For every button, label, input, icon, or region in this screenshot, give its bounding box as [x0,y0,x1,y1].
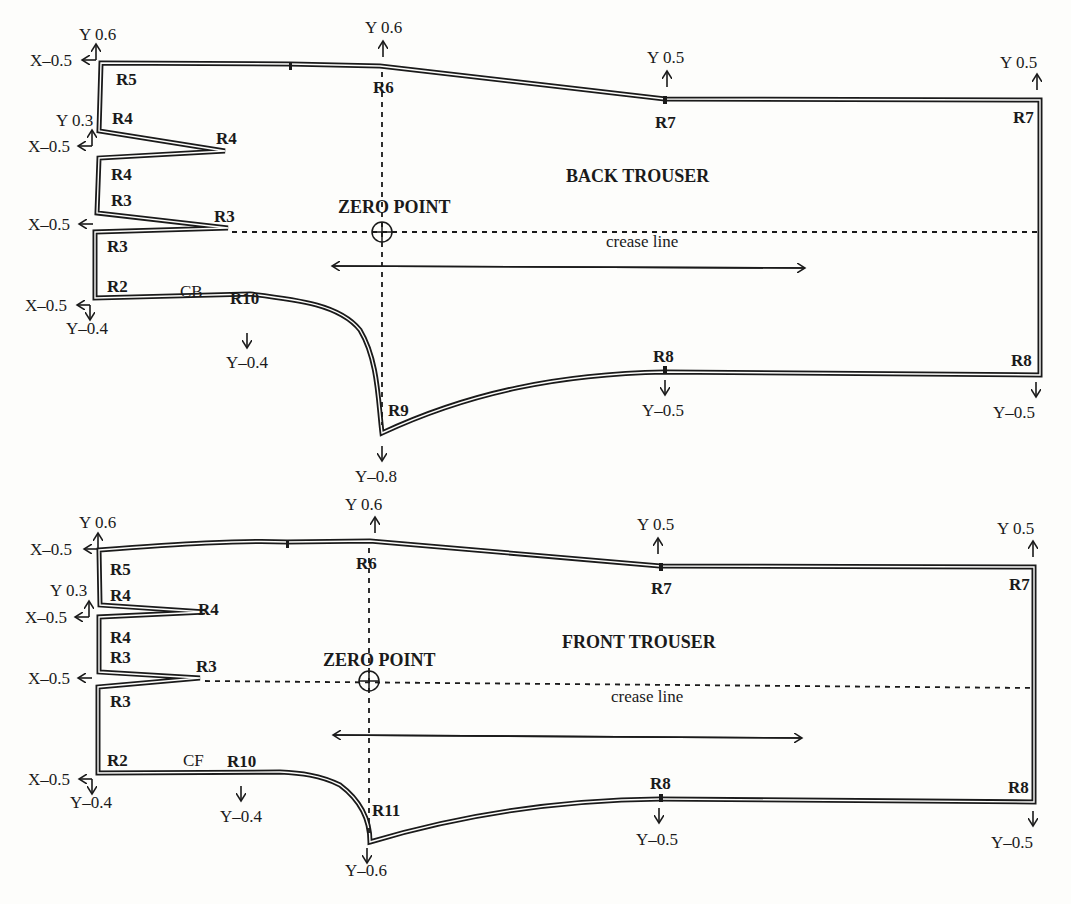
point-label: R8 [1008,778,1029,797]
grade-label: Y 0.6 [79,513,116,532]
grade-label: Y 0.3 [56,111,93,130]
grade-label: Y–0.5 [642,401,684,420]
grade-label: Y 0.6 [345,495,382,514]
grade-label: Y 0.5 [1000,53,1037,72]
front-seam-label: CF [183,751,204,770]
grade-label: Y 0.6 [365,18,402,37]
point-label: R8 [653,347,674,366]
point-label: R3 [214,207,235,226]
point-label: R4 [112,109,133,128]
grade-label: Y–0.5 [993,403,1035,422]
point-label: R11 [372,801,400,820]
front-outline-inner [98,541,1034,842]
front-title: FRONT TROUSER [562,632,717,652]
point-label: R3 [110,692,131,711]
back-outline [95,63,1040,433]
grade-label: Y–0.4 [220,807,263,826]
notch-mark [663,366,667,374]
back-zero-point-icon [372,222,392,242]
grade-label: Y 0.6 [79,25,116,44]
point-label: R8 [1011,351,1032,370]
trouser-grading-diagram: BACK TROUSER ZERO POINT crease line CB R… [0,0,1071,904]
point-label: R8 [650,774,671,793]
grade-label: Y–0.4 [66,319,109,338]
point-label: R10 [227,752,256,771]
front-crease-label: crease line [611,687,683,706]
point-label: R2 [107,751,128,770]
grade-label: X–0.5 [30,540,72,559]
point-label: R4 [110,586,131,605]
back-crease-label: crease line [606,232,678,251]
point-label: R3 [110,648,131,667]
point-label: R3 [111,191,132,210]
grade-label: X–0.5 [28,770,70,789]
notch-mark [659,563,663,571]
point-label: R3 [196,657,217,676]
point-label: R7 [1009,575,1030,594]
point-label: R7 [1013,108,1034,127]
point-label: R4 [110,628,131,647]
point-label: R2 [107,277,128,296]
back-seam-label: CB [180,282,203,301]
front-trouser-pattern: FRONT TROUSER ZERO POINT crease line CF … [25,495,1034,880]
notch-mark [663,96,667,104]
grade-label: X–0.5 [30,51,72,70]
grade-label: X–0.5 [28,215,70,234]
front-zero-point-icon [359,671,379,691]
grade-label: Y 0.5 [997,519,1034,538]
point-label: R4 [216,129,237,148]
point-label: R7 [655,113,676,132]
back-zero-point-label: ZERO POINT [338,197,451,217]
back-title: BACK TROUSER [566,166,710,186]
grade-label: Y–0.5 [991,833,1033,852]
point-label: R7 [651,579,672,598]
notch-mark [286,540,289,548]
grade-label: Y–0.6 [345,861,387,880]
grade-label: Y 0.3 [50,581,87,600]
point-label: R3 [107,237,128,256]
point-label: R4 [198,600,219,619]
front-zero-point-label: ZERO POINT [323,650,436,670]
grade-label: X–0.5 [28,137,70,156]
grade-label: X–0.5 [28,669,70,688]
notch-mark [289,62,292,70]
point-label: R6 [373,78,394,97]
grade-label: Y 0.5 [647,48,684,67]
back-trouser-pattern: BACK TROUSER ZERO POINT crease line CB R… [25,18,1040,486]
point-label: R6 [356,554,377,573]
point-label: R10 [230,289,259,308]
grade-label: Y–0.4 [226,353,269,372]
grade-label: Y–0.5 [636,830,678,849]
front-outline [98,541,1034,842]
grade-label: X–0.5 [25,608,67,627]
grade-label: Y–0.4 [70,793,113,812]
grade-label: Y 0.5 [637,515,674,534]
point-label: R5 [110,560,131,579]
grade-label: X–0.5 [25,296,67,315]
grade-label: Y–0.8 [355,467,397,486]
point-label: R9 [388,401,409,420]
notch-mark [659,794,663,802]
point-label: R5 [116,70,137,89]
point-label: R4 [111,165,132,184]
